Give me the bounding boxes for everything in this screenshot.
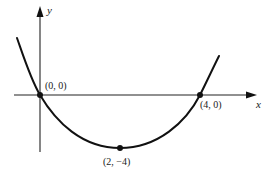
parabola-curve (17, 38, 219, 148)
y-axis-arrow-icon (37, 6, 44, 17)
parabola-graph: x y (0, 0) (4, 0) (2, −4) (0, 0, 270, 178)
x-axis-label: x (255, 98, 261, 110)
vertex-point (117, 145, 123, 151)
x-intercept-point (197, 92, 203, 98)
y-axis (37, 6, 44, 152)
origin-point (37, 92, 43, 98)
x-axis (14, 92, 257, 99)
x-intercept-label: (4, 0) (200, 99, 222, 111)
vertex-label: (2, −4) (103, 156, 130, 168)
origin-label: (0, 0) (45, 80, 67, 92)
y-axis-label: y (46, 4, 52, 16)
